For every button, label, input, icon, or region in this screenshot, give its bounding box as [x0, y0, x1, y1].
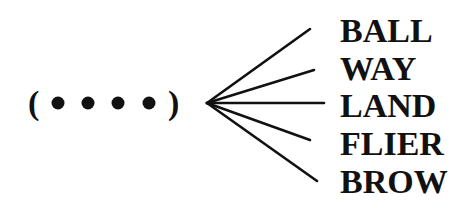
word-brow: BROW	[340, 163, 448, 200]
fan-line-5	[207, 103, 317, 181]
blank-pattern: ( )	[28, 84, 179, 122]
word-list: BALL WAY LAND FLIER BROW	[340, 12, 448, 200]
word-fan-diagram: ( ) BALL WAY LAND FLIER BROW	[0, 0, 457, 208]
fan-line-2	[207, 70, 314, 103]
blank-dot-1	[52, 97, 65, 110]
close-paren: )	[168, 84, 179, 122]
blank-dot-2	[82, 97, 95, 110]
blank-dot-4	[143, 97, 156, 110]
word-ball: BALL	[340, 12, 433, 49]
word-flier: FLIER	[340, 125, 444, 162]
word-land: LAND	[340, 87, 436, 124]
fan-line-1	[207, 29, 310, 103]
fan-lines	[207, 29, 324, 181]
fan-line-4	[207, 103, 310, 140]
blank-dot-3	[112, 97, 125, 110]
word-way: WAY	[340, 50, 416, 87]
open-paren: (	[28, 84, 39, 122]
